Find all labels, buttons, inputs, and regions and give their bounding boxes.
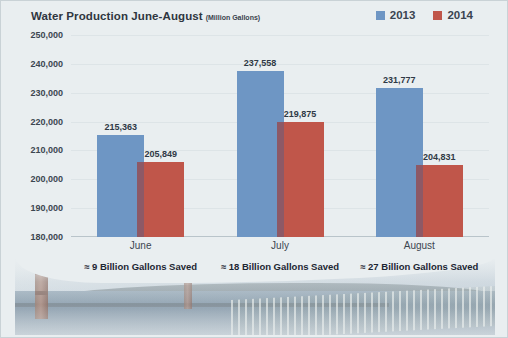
x-axis-label-july: July bbox=[271, 240, 289, 251]
bar-value-label-july-2013: 237,558 bbox=[244, 58, 277, 68]
savings-annotation-june: ≈ 9 Billion Gallons Saved bbox=[84, 261, 197, 272]
savings-annotation-august: ≈ 27 Billion Gallons Saved bbox=[360, 261, 478, 272]
legend-swatch-2013 bbox=[376, 11, 385, 20]
bar-june-2014[interactable] bbox=[137, 162, 184, 237]
savings-annotation-july: ≈ 18 Billion Gallons Saved bbox=[221, 261, 339, 272]
chart-title: Water Production June-August(Million Gal… bbox=[31, 10, 260, 22]
x-axis-label-june: June bbox=[130, 240, 152, 251]
bar-overlap-june bbox=[137, 162, 144, 237]
chart-legend: 2013 2014 bbox=[376, 9, 473, 21]
y-axis-tick-label: 240,000 bbox=[3, 59, 63, 69]
bar-value-label-july-2014: 219,875 bbox=[284, 109, 317, 119]
y-axis-tick-label: 200,000 bbox=[3, 174, 63, 184]
bar-value-label-june-2013: 215,363 bbox=[104, 122, 137, 132]
y-axis-tick-label: 220,000 bbox=[3, 117, 63, 127]
chart-title-text: Water Production June-August bbox=[31, 10, 203, 22]
legend-label-2014: 2014 bbox=[447, 9, 473, 21]
chart-title-units: (Million Gallons) bbox=[206, 14, 260, 21]
legend-item-2013[interactable]: 2013 bbox=[376, 9, 416, 21]
plot-area: 215,363205,849237,558219,875231,777204,8… bbox=[71, 35, 489, 237]
y-axis-tick-label: 230,000 bbox=[3, 88, 63, 98]
bar-value-label-june-2014: 205,849 bbox=[144, 149, 177, 159]
bar-overlap-august bbox=[416, 165, 423, 237]
bar-value-label-august-2013: 231,777 bbox=[383, 75, 416, 85]
legend-item-2014[interactable]: 2014 bbox=[433, 9, 473, 21]
chart-slide: Water Production June-August(Million Gal… bbox=[0, 0, 508, 338]
bar-august-2014[interactable] bbox=[416, 165, 463, 237]
x-axis-label-august: August bbox=[404, 240, 435, 251]
y-axis-tick-label: 180,000 bbox=[3, 232, 63, 242]
gridline bbox=[71, 64, 489, 65]
legend-swatch-2014 bbox=[433, 11, 442, 20]
legend-label-2013: 2013 bbox=[390, 9, 416, 21]
gridline bbox=[71, 35, 489, 36]
y-axis-tick-label: 190,000 bbox=[3, 203, 63, 213]
bar-overlap-july bbox=[277, 122, 284, 237]
bar-value-label-august-2014: 204,831 bbox=[423, 152, 456, 162]
bar-july-2014[interactable] bbox=[277, 122, 324, 237]
y-axis-tick-label: 210,000 bbox=[3, 145, 63, 155]
y-axis-tick-label: 250,000 bbox=[3, 30, 63, 40]
